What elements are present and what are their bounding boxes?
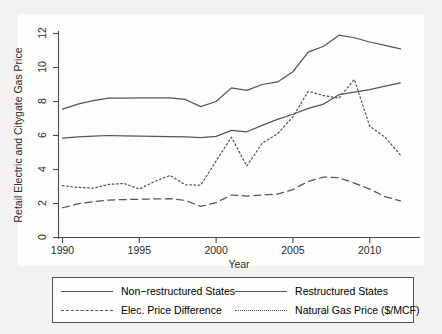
x-tick-label: 2000 xyxy=(204,244,228,256)
y-tick-label: 0 xyxy=(36,234,48,240)
y-axis-title: Retail Electric and Citygate Gas Price xyxy=(12,47,24,222)
legend-item-natural-gas-price[interactable]: Natural Gas Price ($/MCF) xyxy=(235,304,419,316)
series-line-natural-gas-price xyxy=(63,79,401,189)
legend-label: Non−restructured States xyxy=(121,285,235,297)
legend-line-solid-icon xyxy=(235,286,287,296)
y-tick-label: 10 xyxy=(36,61,48,73)
y-axis-tick-labels: 0 2 4 6 8 10 12 xyxy=(36,27,48,240)
y-tick-label: 6 xyxy=(36,132,48,138)
x-tick-label: 2010 xyxy=(358,244,382,256)
legend-line-dashed-icon xyxy=(61,305,113,315)
legend-item-non-restructured-states[interactable]: Non−restructured States xyxy=(61,285,235,297)
y-tick-label: 2 xyxy=(36,200,48,206)
chart-legend: Non−restructured States Restructured Sta… xyxy=(52,277,414,323)
legend-item-elec-price-difference[interactable]: Elec. Price Difference xyxy=(61,304,235,316)
legend-label: Restructured States xyxy=(295,285,388,297)
x-axis-ticks xyxy=(63,238,370,244)
legend-label: Elec. Price Difference xyxy=(121,304,222,316)
series-group xyxy=(63,35,401,208)
x-tick-label: 1995 xyxy=(128,244,152,256)
series-line-non-restructured-states xyxy=(63,35,401,109)
series-line-elec-price-difference xyxy=(63,177,401,208)
series-line-restructured-states xyxy=(63,83,401,138)
x-tick-label: 2005 xyxy=(281,244,305,256)
y-tick-label: 12 xyxy=(36,27,48,39)
x-tick-label: 1990 xyxy=(51,244,75,256)
chart-figure: Retail Electric and Citygate Gas Price 0… xyxy=(0,0,442,334)
y-tick-label: 4 xyxy=(36,166,48,172)
x-axis-tick-labels: 1990 1995 2000 2005 2010 xyxy=(51,244,382,256)
legend-line-dotted-icon xyxy=(235,305,287,315)
line-chart: Retail Electric and Citygate Gas Price 0… xyxy=(0,0,442,270)
y-tick-label: 8 xyxy=(36,98,48,104)
x-axis-title: Year xyxy=(228,258,250,270)
legend-label: Natural Gas Price ($/MCF) xyxy=(295,304,419,316)
y-axis-ticks xyxy=(53,34,59,238)
legend-line-solid-icon xyxy=(61,286,113,296)
legend-item-restructured-states[interactable]: Restructured States xyxy=(235,285,419,297)
